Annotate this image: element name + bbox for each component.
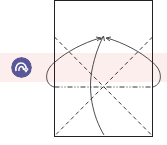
paper-outline <box>55 1 153 137</box>
bottom-fold-arrow <box>91 37 105 135</box>
fold-diagram <box>0 0 167 145</box>
